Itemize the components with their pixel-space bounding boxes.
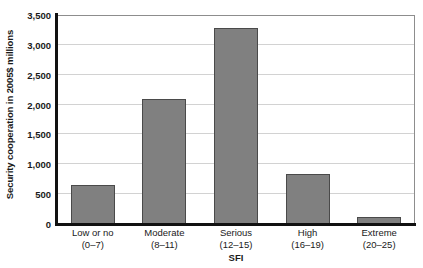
x-axis-category-range: (0–7) — [57, 239, 129, 251]
bar — [286, 174, 330, 224]
x-axis-tick-labels: Low or no(0–7)Moderate(8–11)Serious(12–1… — [57, 227, 415, 253]
x-axis-tick-label: High(16–19) — [272, 227, 344, 251]
bars-layer — [57, 16, 414, 224]
x-axis-category-range: (16–19) — [272, 239, 344, 251]
y-axis-title: Security cooperation in 2005$ millions — [0, 0, 20, 228]
x-axis-category-name: Low or no — [57, 227, 129, 239]
x-axis-title: SFI — [57, 252, 415, 263]
y-axis-tick-label: 0 — [46, 219, 51, 230]
bar — [214, 28, 258, 224]
x-axis-category-range: (12–15) — [200, 239, 272, 251]
y-axis-tick-label: 1,500 — [27, 129, 51, 140]
x-axis-line — [55, 223, 416, 226]
bar — [142, 99, 186, 224]
x-axis-category-name: Serious — [200, 227, 272, 239]
x-axis-category-name: High — [272, 227, 344, 239]
bar — [71, 185, 115, 224]
x-axis-category-name: Moderate — [129, 227, 201, 239]
y-axis-tick-label: 2,000 — [27, 99, 51, 110]
x-axis-tick-label: Moderate(8–11) — [129, 227, 201, 251]
y-axis-tick-label: 2,500 — [27, 69, 51, 80]
y-axis-tick-label: 500 — [35, 189, 51, 200]
plot-area — [57, 15, 415, 224]
y-axis-tick-label: 3,500 — [27, 10, 51, 21]
x-axis-tick-label: Low or no(0–7) — [57, 227, 129, 251]
x-axis-tick-label: Extreme(20–25) — [343, 227, 415, 251]
x-axis-category-range: (20–25) — [343, 239, 415, 251]
bar-chart: Security cooperation in 2005$ millions 0… — [0, 0, 423, 268]
y-axis-title-label: Security cooperation in 2005$ millions — [5, 29, 16, 198]
x-axis-category-name: Extreme — [343, 227, 415, 239]
x-axis-category-range: (8–11) — [129, 239, 201, 251]
y-axis-tick-labels: 05001,0001,5002,0002,5003,0003,500 — [18, 15, 54, 224]
y-axis-tick-label: 3,000 — [27, 39, 51, 50]
y-axis-line — [55, 13, 58, 226]
y-axis-tick-label: 1,000 — [27, 159, 51, 170]
x-axis-tick-label: Serious(12–15) — [200, 227, 272, 251]
